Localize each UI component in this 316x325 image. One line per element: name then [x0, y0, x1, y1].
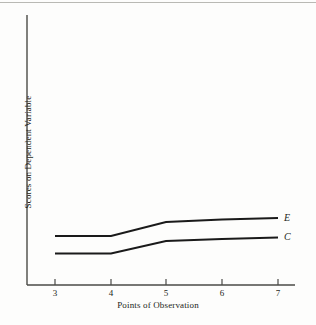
x-tick-label-4: 4 — [101, 288, 121, 298]
x-tick-label-3: 3 — [45, 288, 65, 298]
series-label-c: C — [284, 231, 298, 242]
x-tick-label-5: 5 — [156, 288, 176, 298]
series-line-c — [55, 238, 278, 254]
y-axis-title: Scores on Dependent Variable — [23, 62, 33, 242]
figure-line-chart: 3 4 5 6 7 E C Points of Observation Scor… — [0, 0, 316, 325]
plot-area — [0, 0, 316, 325]
series-line-e — [55, 218, 278, 236]
x-tick-label-6: 6 — [212, 288, 232, 298]
x-axis-title: Points of Observation — [0, 300, 316, 310]
x-tick-label-7: 7 — [268, 288, 288, 298]
series-label-e: E — [284, 212, 298, 223]
